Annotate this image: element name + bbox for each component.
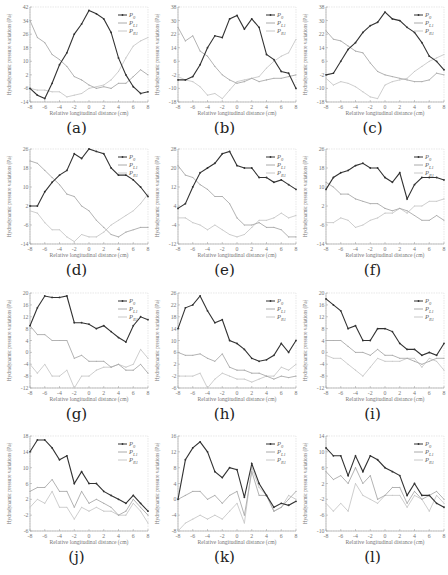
y-axis-title: Hydrodynamic pressure variations (Pa) — [302, 443, 309, 525]
data-point — [222, 353, 223, 354]
y-tick-label: 8 — [322, 326, 325, 332]
data-point — [421, 177, 423, 179]
data-point — [273, 78, 274, 79]
data-point — [391, 331, 393, 333]
data-point — [118, 515, 119, 516]
series-line-PR1 — [326, 355, 444, 376]
data-point — [333, 479, 334, 480]
data-point — [96, 361, 97, 362]
data-point — [111, 79, 112, 80]
data-point — [273, 59, 275, 61]
data-point — [88, 511, 89, 512]
data-point — [370, 203, 371, 204]
data-point — [229, 234, 230, 235]
x-tick-label: -6 — [190, 104, 195, 110]
data-point — [295, 74, 296, 75]
data-point — [110, 331, 112, 333]
data-point — [428, 494, 430, 496]
x-tick-label: -8 — [324, 246, 329, 252]
data-point — [133, 76, 134, 77]
data-point — [222, 98, 223, 99]
data-point — [185, 376, 186, 377]
x-axis-title: Relative longitudinal distance (cm) — [346, 396, 425, 403]
data-point — [147, 196, 149, 198]
data-point — [443, 370, 444, 371]
data-point — [421, 499, 422, 500]
data-point — [362, 224, 363, 225]
data-point — [110, 494, 112, 496]
data-point — [214, 162, 216, 164]
data-point — [244, 81, 245, 82]
data-point — [177, 376, 178, 377]
data-point — [66, 507, 67, 508]
data-point — [236, 81, 237, 82]
data-point — [192, 447, 194, 449]
data-point — [177, 79, 179, 81]
data-point — [443, 499, 444, 500]
chart-svg: -6-2261014182226-8-6-4-202468Relative lo… — [150, 288, 299, 406]
y-tick-label: 22 — [171, 302, 177, 308]
data-point — [88, 376, 89, 377]
y-tick-label: 12 — [319, 314, 325, 320]
data-point — [377, 98, 378, 99]
data-point — [229, 495, 230, 496]
data-point — [192, 177, 193, 178]
data-point — [273, 506, 275, 508]
data-point — [140, 507, 141, 508]
chart-svg: -12-8-4048121620-8-6-4-202468Relative lo… — [298, 288, 447, 406]
x-tick-label: 6 — [132, 104, 135, 110]
data-point — [429, 511, 430, 512]
data-point — [125, 215, 126, 216]
data-point — [288, 76, 289, 77]
x-tick-label: -8 — [28, 533, 33, 539]
data-point — [95, 150, 97, 152]
data-point — [266, 79, 267, 80]
data-point — [407, 78, 408, 79]
data-point — [192, 355, 193, 356]
data-point — [214, 322, 216, 324]
data-point — [332, 304, 334, 306]
y-tick-label: 6 — [26, 481, 29, 487]
data-point — [348, 346, 349, 347]
data-point — [132, 86, 134, 88]
x-tick-label: 6 — [280, 246, 283, 252]
y-tick-label: -2 — [24, 512, 29, 518]
data-point — [199, 441, 201, 443]
data-point — [355, 483, 356, 484]
x-tick-label: 8 — [443, 533, 446, 539]
data-point — [222, 373, 223, 374]
data-point — [103, 227, 104, 228]
data-point — [66, 52, 68, 54]
data-point — [325, 188, 327, 190]
chart-svg: -14-62101826-8-6-4-202468Relative longit… — [2, 144, 151, 262]
data-point — [407, 503, 408, 504]
data-point — [407, 507, 408, 508]
y-tick-label: 0 — [322, 349, 325, 355]
data-point — [185, 175, 186, 176]
data-point — [273, 511, 274, 512]
data-point — [36, 205, 38, 207]
y-axis-title: Hydrodynamic pressure variations (Pa) — [154, 156, 161, 238]
panel-caption: (e) — [150, 261, 299, 279]
data-point — [273, 181, 275, 183]
data-point — [295, 364, 296, 365]
data-point — [185, 355, 186, 356]
panel-caption: (h) — [150, 405, 299, 423]
data-point — [280, 71, 282, 73]
data-point — [73, 153, 75, 155]
data-point — [414, 184, 416, 186]
data-point — [44, 334, 45, 335]
data-point — [29, 451, 31, 453]
data-point — [443, 54, 444, 55]
data-point — [177, 498, 179, 500]
data-point — [59, 340, 60, 341]
data-point — [200, 51, 201, 52]
y-tick-label: 4 — [174, 481, 177, 487]
series-line-PR1 — [30, 194, 148, 242]
data-point — [273, 376, 274, 377]
data-point — [370, 499, 371, 500]
x-tick-label: -8 — [324, 104, 329, 110]
data-point — [355, 227, 356, 228]
data-point — [222, 229, 223, 230]
data-point — [236, 236, 237, 237]
